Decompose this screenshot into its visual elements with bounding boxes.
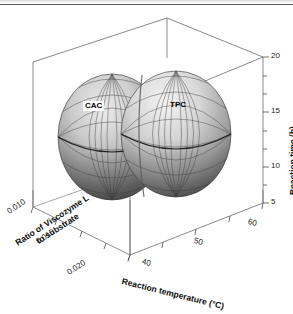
- isosurface-tpc: [121, 71, 231, 197]
- isosurface-group: [58, 71, 231, 200]
- y-tick-20: 20: [271, 52, 280, 60]
- annotation-tpc: TPC: [168, 100, 188, 110]
- y-tick-15: 15: [271, 107, 280, 115]
- annotation-cac: CAC: [83, 101, 104, 111]
- y-tick-5: 5: [271, 198, 275, 206]
- y-axis-ticks: [263, 57, 269, 203]
- x-axis-ticks: [128, 203, 263, 261]
- y-axis-title: Reaction time (h): [289, 126, 293, 195]
- figure-3d-response-surface: CAC TPC 20 15 10 5 Reaction time (h) 40 …: [0, 0, 293, 314]
- y-tick-10: 10: [271, 162, 280, 170]
